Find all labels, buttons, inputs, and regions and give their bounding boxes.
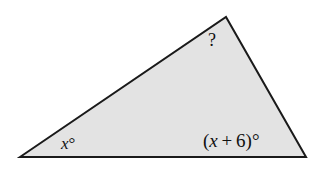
angle-label-left-degree-icon: ° bbox=[69, 134, 76, 153]
triangle-figure: ? x° (x + 6)° bbox=[0, 0, 327, 171]
angle-label-apex-unknown: ? bbox=[208, 31, 216, 49]
triangle-diagram-canvas bbox=[0, 0, 327, 171]
angle-label-right-variable: x bbox=[209, 130, 217, 151]
angle-label-right-addend: 6 bbox=[236, 130, 246, 151]
angle-label-left: x° bbox=[61, 135, 75, 152]
angle-label-left-variable: x bbox=[61, 134, 69, 153]
angle-label-right: (x + 6)° bbox=[203, 131, 260, 150]
angle-label-right-operator: + bbox=[218, 130, 236, 151]
angle-label-right-degree-icon: ° bbox=[252, 130, 260, 151]
